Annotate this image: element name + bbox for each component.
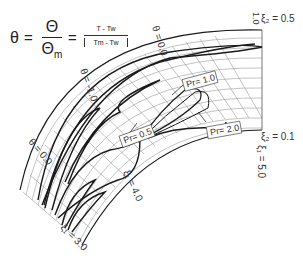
pr-0-5-label: Pr= 0.5 [122, 126, 153, 145]
inner-boundary-xi2-01 [82, 130, 262, 245]
isotherm-contours [38, 44, 262, 232]
theta-1-0-label: 1.0 [251, 12, 261, 25]
xi1-3-0-label: ξ₁ = 3.0 [58, 222, 90, 254]
xi1-5-0-label: ξ₁ = 5.0 [255, 145, 267, 179]
callout-pr-1-0: Pr= 1.0 [182, 71, 218, 91]
xi2-0-1-label: ξ₂ = 0.1 [261, 131, 295, 143]
xi1-4-0-label: ξ₁ = 4.0 [120, 168, 145, 204]
theta-0-upper-label: θ = 0.0 [150, 24, 170, 57]
isotherm-diagram: Pr= 1.0 Pr= 2.0 Pr= 0.5 θ = 0.0 θ = -1.0… [0, 0, 303, 263]
callout-pr-2-0: Pr= 2.0 [206, 121, 242, 139]
xi2-0-5-label: ξ₂ = 0.5 [261, 13, 295, 25]
